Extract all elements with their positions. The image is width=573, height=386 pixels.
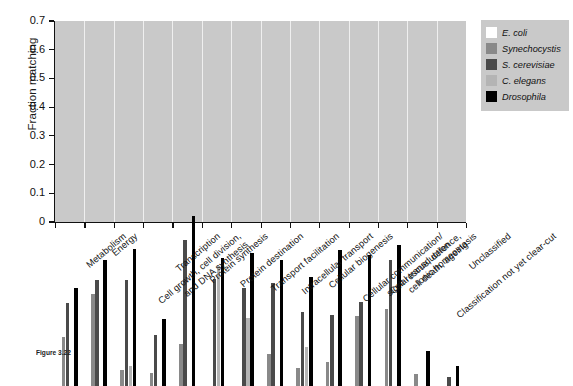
bar-group — [378, 21, 407, 386]
y-axis-tick-label: 0.5 — [15, 72, 45, 83]
legend-item: Drosophila — [486, 89, 565, 104]
x-axis-tick — [290, 223, 291, 228]
y-axis-tick-label: 0.7 — [15, 15, 45, 26]
figure-caption: Figure 3.22 — [36, 349, 556, 357]
legend-label: C. elegans — [502, 76, 546, 86]
x-axis-tick — [114, 223, 115, 228]
bar-group — [231, 21, 260, 386]
bar — [87, 294, 91, 386]
bar-group — [143, 21, 172, 386]
bar — [217, 266, 221, 386]
legend-item: S. cerevisiae — [486, 57, 565, 72]
caption-label: Figure 3.22 — [36, 349, 71, 356]
x-axis-tick — [55, 223, 56, 228]
bar — [267, 354, 271, 386]
bar — [326, 362, 330, 386]
x-axis-tick — [319, 223, 320, 228]
legend-swatch — [486, 91, 497, 102]
bar — [66, 303, 70, 386]
x-axis-tick — [172, 223, 173, 228]
bar — [74, 288, 78, 386]
bar — [62, 337, 66, 386]
bar — [95, 280, 99, 386]
x-axis-tick — [407, 223, 408, 228]
x-axis-tick — [349, 223, 350, 228]
bar-group — [407, 21, 436, 386]
bar-group — [290, 21, 319, 386]
bar — [322, 364, 326, 386]
bar-group — [437, 21, 466, 386]
bar — [120, 370, 124, 386]
bar — [192, 216, 196, 386]
y-axis-tick-label: 0.1 — [15, 187, 45, 198]
bar-group — [261, 21, 290, 386]
x-axis-tick — [378, 223, 379, 228]
legend-item: E. coli — [486, 25, 565, 40]
y-axis-tick-label: 0 — [27, 216, 45, 227]
bar — [368, 255, 372, 386]
bar — [133, 249, 137, 386]
legend-swatch — [486, 75, 497, 86]
bar — [116, 379, 120, 386]
bar — [296, 368, 300, 386]
x-axis-tick — [437, 223, 438, 228]
x-axis-tick — [143, 223, 144, 228]
chart-legend: E. coliSynechocystisS. cerevisiaeC. eleg… — [481, 20, 569, 111]
bar — [359, 302, 363, 386]
legend-label: Synechocystis — [502, 44, 561, 54]
bar-group — [202, 21, 231, 386]
bar-group — [114, 21, 143, 386]
bar — [150, 373, 154, 386]
x-axis-tick — [261, 223, 262, 228]
legend-label: E. coli — [502, 28, 527, 38]
legend-swatch — [486, 59, 497, 70]
legend-item: Synechocystis — [486, 41, 565, 56]
bar-group — [319, 21, 348, 386]
bar — [456, 366, 460, 386]
legend-swatch — [486, 27, 497, 38]
bar — [385, 309, 389, 386]
x-axis-tick — [231, 223, 232, 228]
bar — [263, 360, 267, 386]
bar — [103, 260, 107, 386]
bar-group — [55, 21, 84, 386]
bar — [447, 377, 451, 386]
y-axis-tick-label: 0.6 — [15, 44, 45, 55]
bar — [91, 294, 95, 386]
legend-label: Drosophila — [502, 92, 546, 102]
y-axis-tick-label: 0.4 — [15, 101, 45, 112]
bar — [414, 374, 418, 386]
x-axis-tick — [84, 223, 85, 228]
bar-group — [172, 21, 201, 386]
bar — [271, 283, 275, 386]
bar-group — [349, 21, 378, 386]
x-axis-tick — [202, 223, 203, 228]
bar — [58, 336, 62, 386]
bar — [213, 279, 217, 386]
y-axis-tick-label: 0.2 — [15, 159, 45, 170]
bar — [154, 335, 158, 386]
legend-swatch — [486, 43, 497, 54]
bar-group — [84, 21, 113, 386]
bar — [242, 288, 246, 386]
bar — [129, 366, 133, 386]
y-axis-tick-label: 0.3 — [15, 130, 45, 141]
legend-item: C. elegans — [486, 73, 565, 88]
bar — [125, 280, 129, 386]
legend-label: S. cerevisiae — [502, 60, 555, 70]
x-axis-tick — [466, 223, 467, 228]
